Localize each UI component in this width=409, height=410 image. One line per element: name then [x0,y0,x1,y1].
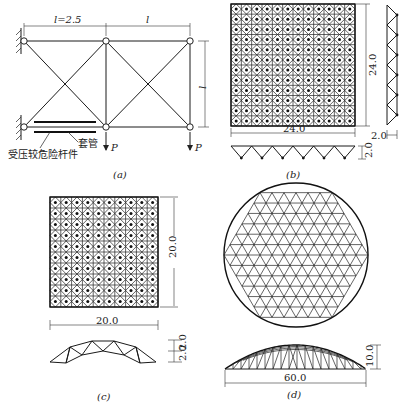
height-label-c: 20.0 [167,236,178,258]
sleeve-label: 套管 [78,137,98,149]
dome-plan-panel-d [224,183,368,327]
width-label-c: 20.0 [96,315,118,326]
space-grid-panel-c [50,197,158,307]
dims-d: 60.0 10.0 (d) [225,345,381,400]
structural-figure: l=2.5 l l P P 套管 受压较危险杆件 (a) 24.0 24.0 2… [0,0,409,410]
fixed-support-bottom-icon [16,115,21,140]
rise-label-d: 10.0 [364,345,375,367]
caption-a: (a) [113,169,127,180]
width-label-b: 24.0 [283,123,305,134]
span-label-d: 60.0 [284,372,306,383]
load-right-label: P [194,142,202,153]
caption-c: (c) [97,391,111,402]
span-right-label: l [146,14,149,25]
truss-panel-a: l=2.5 l l P P 套管 受压较危险杆件 (a) [8,14,209,180]
height-label-b: 24.0 [367,54,378,76]
rise-label-2-c: 2.0 [177,334,188,350]
member-label: 受压较危险杆件 [8,148,78,160]
load-left-label: P [110,142,118,153]
height-label: l [197,86,208,89]
figure-drawing: l=2.5 l l P P 套管 受压较危险杆件 (a) 24.0 24.0 2… [0,0,409,410]
bottom-depth-label-b: 2.0 [363,142,374,158]
dims-c: 20.0 20.0 2.0 2.0 (c) [50,197,188,402]
dome-elevation-d [225,345,366,369]
span-left-label: l=2.5 [54,14,81,25]
caption-d: (d) [287,389,301,400]
caption-b: (b) [286,169,300,180]
side-depth-label-b: 2.0 [371,130,387,141]
fixed-support-top-icon [16,28,21,54]
